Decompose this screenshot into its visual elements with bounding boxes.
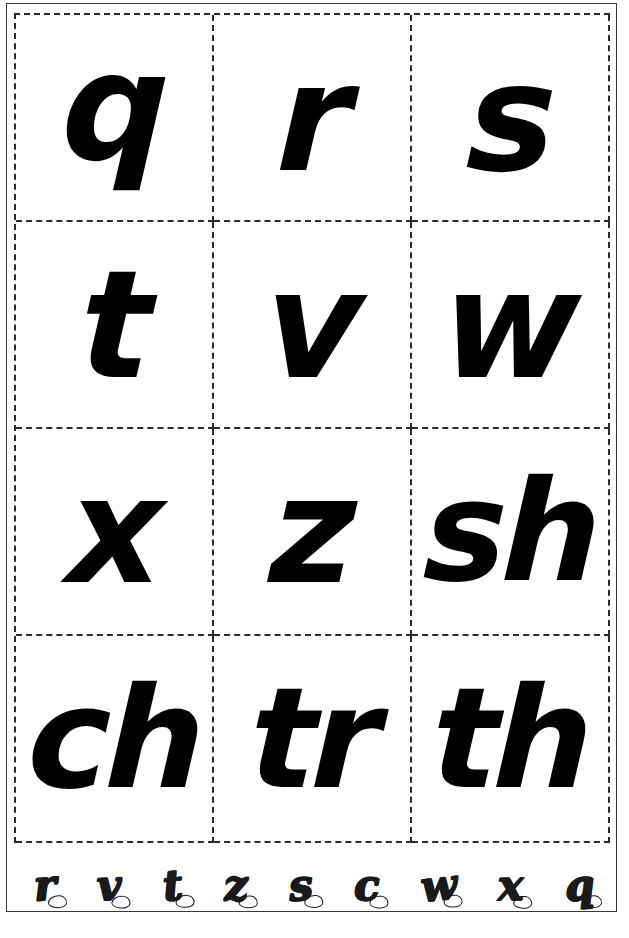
card-glyph: sh [422,470,598,593]
worksheet-page: q r s t v w x z sh ch [6,3,617,912]
outline-letter-q: q [563,864,595,908]
card-glyph: ch [26,677,202,800]
outline-letter-c: c [353,865,380,908]
flash-card-grid: q r s t v w x z sh ch [14,13,610,843]
outline-letter-w: w [419,863,459,909]
card-glyph: t [77,259,150,391]
flash-card-r[interactable]: r [214,15,412,222]
flash-card-w[interactable]: w [412,222,610,429]
flash-card-t[interactable]: t [16,222,214,429]
card-glyph: r [274,52,350,184]
outline-letter-strip: r v t z s c w x q [14,849,610,911]
flash-card-sh[interactable]: sh [412,429,610,636]
flash-card-x[interactable]: x [16,429,214,636]
flash-card-ch[interactable]: ch [16,636,214,843]
flash-card-v[interactable]: v [214,222,412,429]
outline-letter-x: x [498,865,524,907]
flash-card-s[interactable]: s [412,15,610,222]
card-glyph: v [262,259,361,391]
outline-letter-t: t [161,864,185,908]
card-glyph: z [268,466,356,596]
outline-letter-r: r [33,864,58,907]
flash-card-q[interactable]: q [16,15,214,222]
flash-card-tr[interactable]: tr [214,636,412,843]
card-glyph: w [440,259,580,391]
card-glyph: tr [247,677,376,800]
flash-card-z[interactable]: z [214,429,412,636]
outline-letter-z: z [223,864,249,907]
card-glyph: th [430,677,590,800]
card-glyph: q [60,41,169,173]
card-glyph: s [465,52,556,184]
card-glyph: x [65,466,162,596]
flash-card-th[interactable]: th [412,636,610,843]
outline-letter-v: v [97,865,123,908]
outline-letter-s: s [287,864,314,908]
